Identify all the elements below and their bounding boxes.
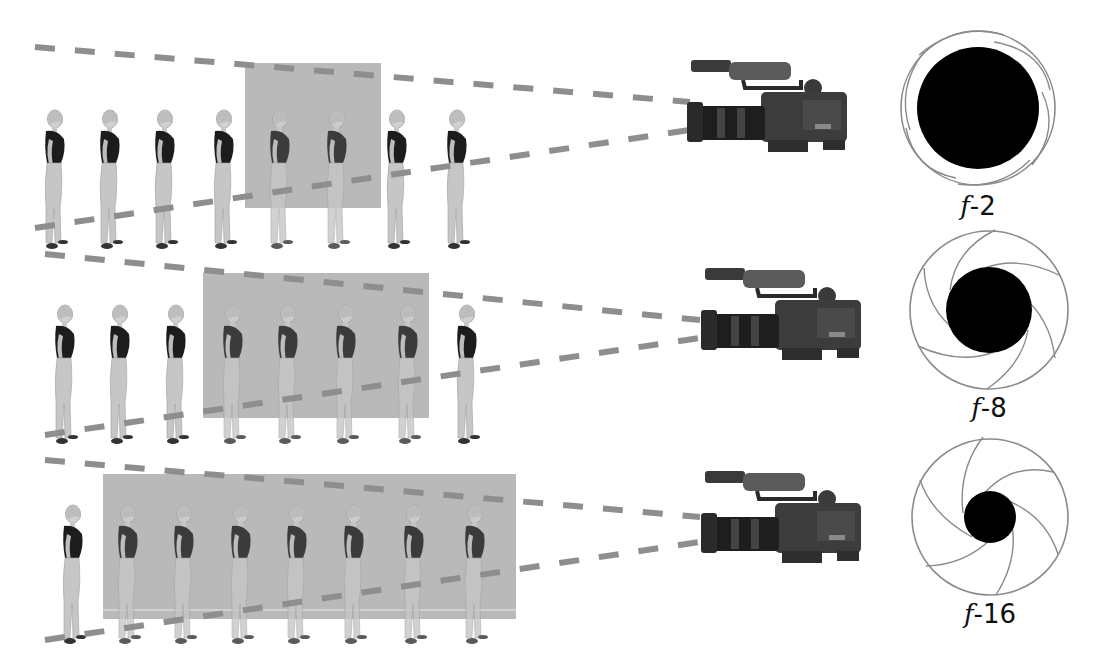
aperture-opening: [917, 47, 1039, 169]
aperture-opening: [964, 491, 1016, 543]
row-f8: f-8: [45, 230, 1068, 444]
video-camera-icon: [701, 471, 861, 563]
video-camera-icon: [687, 60, 847, 152]
f-stop-label: f-2: [958, 191, 996, 221]
iris-icon: [901, 31, 1055, 185]
iris-icon: [912, 437, 1068, 595]
video-camera-icon: [701, 268, 861, 360]
depth-of-field-diagram: f-2 f-8: [0, 0, 1099, 671]
iris-icon: [910, 230, 1068, 389]
aperture-opening: [946, 267, 1032, 353]
f-stop-label: f-16: [962, 599, 1016, 629]
f-stop-label: f-8: [969, 393, 1007, 423]
row-f16: f-16: [45, 437, 1068, 644]
row-f2: f-2: [35, 31, 1055, 249]
